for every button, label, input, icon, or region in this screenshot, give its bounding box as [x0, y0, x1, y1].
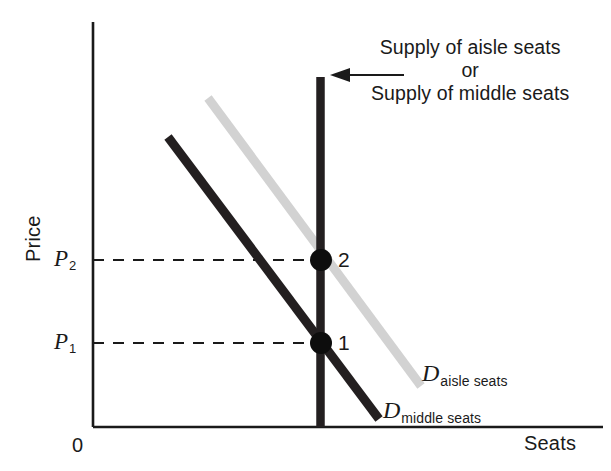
- demand-curve-label-aisle-seats: Daisle seats: [422, 359, 507, 387]
- equilibrium-point-2: [310, 249, 332, 271]
- supply-annotation-line-3: Supply of middle seats: [371, 82, 569, 105]
- demand-curve-label-middle-seats: Dmiddle seats: [383, 396, 480, 424]
- price-tick-label-p2: P2: [54, 245, 75, 272]
- demand-label-subscript-middle: middle seats: [401, 410, 481, 426]
- equilibrium-point-label-2: 2: [338, 248, 350, 273]
- price-tick-label-p1: P1: [54, 328, 75, 355]
- price-tick-letter-p2: P: [54, 246, 68, 271]
- supply-demand-figure: Price Seats 0 P2 P1 2 1 Supply of aisle …: [0, 0, 611, 471]
- origin-label: 0: [72, 434, 83, 458]
- supply-annotation-line-1: Supply of aisle seats: [371, 36, 569, 59]
- demand-label-subscript-aisle: aisle seats: [440, 373, 507, 389]
- supply-annotation-line-2: or: [371, 59, 569, 82]
- equilibrium-point-label-1: 1: [338, 331, 350, 356]
- supply-annotation-text: Supply of aisle seats or Supply of middl…: [371, 36, 569, 105]
- price-tick-subscript-p1: 1: [69, 341, 76, 356]
- price-tick-letter-p1: P: [54, 329, 68, 354]
- y-axis-label-text: Price: [22, 152, 46, 262]
- demand-label-letter-middle: D: [383, 397, 400, 423]
- equilibrium-point-1: [310, 332, 332, 354]
- price-tick-subscript-p2: 2: [69, 258, 76, 273]
- demand-label-letter-aisle: D: [422, 360, 439, 386]
- y-axis-label: Price: [4, 60, 28, 170]
- x-axis-label: Seats: [524, 432, 576, 456]
